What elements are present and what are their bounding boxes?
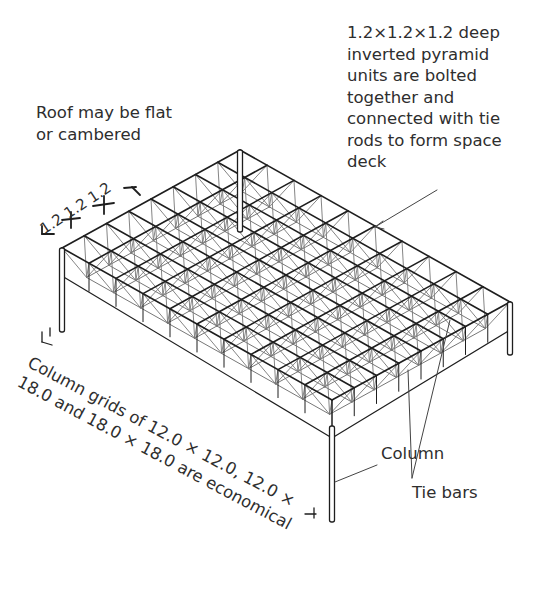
units-line: 1.2×1.2×1.2 deep bbox=[347, 22, 502, 44]
bottom-chord bbox=[141, 308, 168, 323]
bottom-chord bbox=[87, 277, 114, 292]
bottom-chord bbox=[195, 326, 217, 338]
pyramid-diagonal bbox=[151, 199, 153, 241]
pyramid-diagonal bbox=[291, 302, 293, 344]
pyramid-diagonal bbox=[269, 315, 271, 357]
pyramid-diagonal bbox=[323, 345, 348, 374]
pyramid-diagonal bbox=[246, 327, 271, 356]
pyramid-diagonal bbox=[348, 211, 350, 253]
pyramid-diagonal bbox=[380, 253, 382, 295]
grid-tick bbox=[42, 342, 52, 345]
pyramid-diagonal bbox=[107, 224, 132, 253]
pyramid-diagonal bbox=[350, 360, 375, 389]
top-chord bbox=[218, 162, 488, 314]
pyramid-diagonal bbox=[232, 245, 257, 274]
units-line: together and bbox=[347, 87, 502, 109]
pyramid-diagonal bbox=[358, 266, 383, 295]
pyramid-diagonal bbox=[134, 239, 159, 268]
pyramid-diagonal bbox=[259, 260, 261, 302]
bottom-chord bbox=[374, 378, 396, 390]
pyramid-diagonal bbox=[434, 284, 436, 326]
pyramid-diagonal bbox=[327, 373, 329, 415]
pyramid-diagonal bbox=[215, 284, 217, 326]
pyramid-diagonal bbox=[353, 238, 378, 267]
pyramid-diagonal bbox=[375, 226, 377, 268]
pyramid-diagonal bbox=[219, 312, 221, 354]
pyramid-diagonal bbox=[156, 226, 158, 268]
pyramid-diagonal bbox=[372, 348, 397, 377]
pyramid-diagonal bbox=[407, 269, 432, 298]
pyramid-diagonal bbox=[485, 302, 510, 329]
pyramid-diagonal bbox=[323, 345, 325, 387]
pyramid-diagonal bbox=[183, 242, 208, 271]
pyramid-diagonal bbox=[305, 385, 330, 414]
pyramid-diagonal bbox=[321, 196, 323, 238]
pyramid-diagonal bbox=[165, 281, 190, 310]
units-annotation: 1.2×1.2×1.2 deep inverted pyramid units … bbox=[347, 22, 502, 173]
bottom-chord bbox=[168, 311, 190, 323]
column-left bbox=[60, 248, 65, 332]
bottom-chord bbox=[249, 356, 271, 368]
pyramid-diagonal bbox=[178, 214, 180, 256]
pyramid-diagonal bbox=[129, 211, 154, 240]
bottom-chord bbox=[303, 399, 330, 414]
column-back bbox=[238, 150, 243, 232]
pyramid-diagonal bbox=[299, 208, 301, 250]
pyramid-diagonal bbox=[170, 309, 195, 338]
pyramid-diagonal bbox=[250, 205, 252, 247]
pyramid-diagonal bbox=[434, 284, 459, 313]
bottom-chord bbox=[276, 384, 303, 399]
pyramid-diagonal bbox=[394, 336, 396, 378]
pyramid-diagonal bbox=[223, 190, 225, 232]
pyramid-diagonal bbox=[254, 232, 256, 274]
pyramid-diagonal bbox=[165, 281, 167, 323]
pyramid-diagonal bbox=[299, 208, 324, 237]
pyramid-diagonal bbox=[129, 211, 131, 253]
bottom-chord bbox=[87, 265, 109, 277]
pyramid-diagonal bbox=[156, 226, 181, 255]
bottom-chord bbox=[396, 365, 418, 377]
units-line: units are bolted bbox=[347, 65, 502, 87]
bottom-chord bbox=[114, 293, 141, 308]
roof-annotation: Roof may be flat or cambered bbox=[36, 102, 172, 145]
pyramid-diagonal bbox=[62, 248, 87, 277]
pyramid-diagonal bbox=[138, 266, 163, 295]
pyramid-diagonal bbox=[272, 193, 274, 235]
pyramid-diagonal bbox=[242, 300, 244, 342]
pyramid-diagonal bbox=[362, 293, 387, 322]
pyramid-diagonal bbox=[281, 248, 283, 290]
pyramid-diagonal bbox=[178, 214, 203, 243]
pyramid-diagonal bbox=[227, 217, 229, 259]
pyramid-diagonal bbox=[313, 290, 315, 332]
pyramid-diagonal bbox=[318, 318, 320, 360]
pyramid-diagonal bbox=[394, 336, 419, 365]
pyramid-diagonal bbox=[210, 257, 212, 299]
pyramid-diagonal bbox=[245, 177, 247, 219]
pyramid-diagonal bbox=[223, 190, 248, 219]
pyramid-diagonal bbox=[461, 299, 463, 341]
pyramid-diagonal bbox=[416, 324, 418, 366]
pyramid-diagonal bbox=[331, 251, 333, 293]
pyramid-diagonal bbox=[215, 284, 240, 313]
pyramid-diagonal bbox=[269, 315, 294, 344]
pyramid-diagonal bbox=[331, 251, 356, 280]
pyramid-diagonal bbox=[237, 272, 239, 314]
pyramid-diagonal bbox=[281, 248, 306, 277]
bottom-chord bbox=[114, 280, 136, 292]
pyramid-diagonal bbox=[286, 275, 311, 304]
column-right bbox=[508, 302, 513, 355]
pyramid-diagonal bbox=[84, 236, 86, 278]
units-line: inverted pyramid bbox=[347, 44, 502, 66]
units-line: connected with tie bbox=[347, 108, 502, 130]
pyramid-diagonal bbox=[138, 266, 140, 308]
column-leader bbox=[335, 465, 377, 482]
pyramid-diagonal bbox=[367, 321, 369, 363]
pyramid-diagonal bbox=[161, 254, 186, 283]
pyramid-diagonal bbox=[380, 253, 405, 282]
pyramid-diagonal bbox=[483, 287, 485, 329]
pyramid-diagonal bbox=[210, 257, 235, 286]
pyramid-diagonal bbox=[89, 263, 114, 292]
roof-line: or cambered bbox=[36, 124, 172, 146]
pyramid-diagonal bbox=[161, 254, 163, 296]
pyramid-diagonal bbox=[197, 324, 222, 353]
